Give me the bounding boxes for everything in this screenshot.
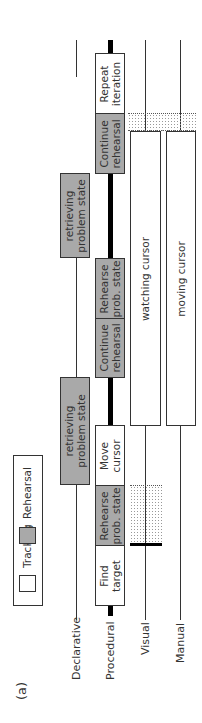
procedural-find-target: Findtarget [95,545,125,606]
watching-cursor-label: watching cursor [140,236,152,320]
box-line1: Repeat [98,65,110,102]
box-line1: Move [98,441,110,469]
box-line1: Find [98,565,110,587]
box-line2: problem state [75,394,87,467]
procedural-rehearse-prob-state-1: Rehearseprob. state [95,485,125,546]
declarative-retrieving-problem-state-2: retrievingproblem state [60,173,90,258]
visual-request-marker [130,543,162,546]
declarative-retrieving-problem-state-1: retrievingproblem state [60,377,90,485]
visual-waiting-region [130,485,162,545]
box-line1: Rehearse [98,264,110,313]
box-line2: problem state [75,179,87,252]
procedural-continue-rehearsal-1: Continuerehearsal [95,318,125,378]
visual-waiting-region-top [128,113,196,131]
box-line2: rehearsal [110,119,122,168]
box-line1: Continue [98,120,110,167]
procedural-active-line [108,40,113,53]
procedural-move-cursor: Movecursor [95,425,125,486]
lane-label-visual: Visual [139,622,152,655]
procedural-active-line [108,605,113,616]
box-line1: Rehearse [98,491,110,540]
lane-line-manual [180,425,181,620]
legend-swatch-rehearsal [19,527,36,544]
lane-line-declarative [76,40,77,77]
legend: Tracking Rehearsal [13,455,43,606]
procedural-active-line [108,173,113,258]
box-line2: iteration [110,61,122,105]
manual-moving-cursor: moving cursor [166,131,196,426]
box-line2: rehearsal [110,323,122,372]
box-line2: cursor [110,439,122,472]
box-line2: prob. state [110,487,122,544]
lane-label-manual: Manual [174,623,187,663]
procedural-repeat-iteration: Repeatiteration [95,53,125,114]
box-line1: Continue [98,324,110,371]
legend-swatch-tracking [19,575,36,592]
box-line1: retrieving [63,406,75,457]
lane-line-declarative [76,485,77,620]
lane-label-declarative: Declarative [70,617,83,680]
box-line1: retrieving [63,190,75,241]
procedural-rehearse-prob-state-2: Rehearseprob. state [95,258,125,319]
box-line2: prob. state [110,260,122,317]
lane-label-procedural: Procedural [104,621,117,680]
figure-label: (a) [14,682,29,700]
visual-watching-cursor: watching cursor [130,131,161,426]
moving-cursor-label: moving cursor [175,241,187,316]
legend-label-rehearsal: Rehearsal [21,467,33,519]
procedural-continue-rehearsal-2: Continuerehearsal [95,113,125,174]
procedural-active-line [108,378,113,425]
lane-line-declarative [76,258,77,377]
box-line2: target [110,560,122,592]
